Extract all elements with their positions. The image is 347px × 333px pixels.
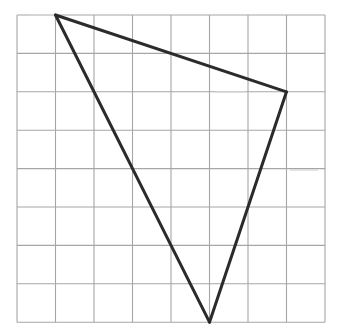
- scan-artifacts: [30, 15, 318, 170]
- square-grid: [17, 15, 325, 322]
- grid-triangle-diagram: [0, 0, 347, 333]
